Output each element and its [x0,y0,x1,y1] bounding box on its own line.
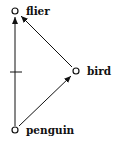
node-circle-icon [12,127,18,133]
node-flier: flier [12,5,50,17]
node-label: flier [26,5,50,17]
inheritance-diagram: flier bird penguin [0,0,114,146]
node-bird: bird [73,65,112,77]
edge-bird-flier [21,16,72,67]
node-label: penguin [26,124,75,136]
edge-penguin-bird [19,76,71,126]
edge-penguin-flier-negative [10,17,22,126]
node-circle-icon [12,8,18,14]
node-penguin: penguin [12,124,75,136]
node-circle-icon [73,68,79,74]
node-label: bird [87,65,112,77]
